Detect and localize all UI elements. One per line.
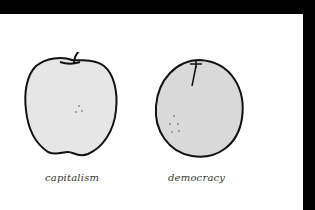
orange-icon [152, 56, 247, 171]
apple-icon [22, 52, 122, 172]
illustration-card: capitalism democracy [0, 14, 303, 210]
orange-caption: democracy [168, 172, 225, 183]
apple-caption: capitalism [45, 172, 99, 183]
